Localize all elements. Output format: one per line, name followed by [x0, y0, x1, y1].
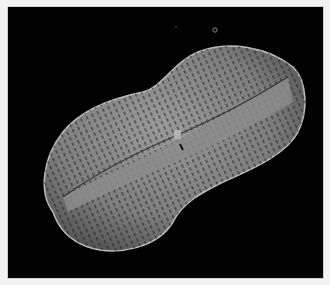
debris-particle: [213, 28, 217, 32]
micrograph-frame: [7, 6, 324, 279]
debris-particle: [175, 26, 177, 28]
diatom-image: [8, 7, 325, 280]
striae-pattern: [8, 7, 325, 280]
central-nodule: [174, 130, 181, 139]
